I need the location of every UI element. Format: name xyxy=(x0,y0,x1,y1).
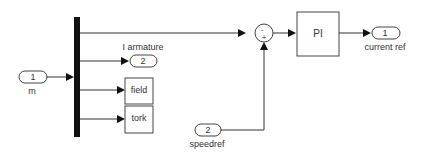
inport-m-number: 1 xyxy=(30,72,35,82)
outport-current-ref-label: current ref xyxy=(364,42,406,52)
sum-block[interactable]: - + xyxy=(255,24,273,42)
inport-speedref-number: 2 xyxy=(205,125,210,135)
pi-label: PI xyxy=(313,28,322,39)
inport-m-label: m xyxy=(28,86,36,96)
outport-i-armature-label: I armature xyxy=(122,42,163,52)
block-diagram: 1 m 2 I armature field tork - + 2 speedr… xyxy=(0,0,424,154)
sum-sign-minus: - xyxy=(261,25,264,34)
arrow-to-pi xyxy=(288,29,296,37)
arrow-m-to-demux xyxy=(66,73,74,81)
block-tork[interactable]: tork xyxy=(125,106,153,133)
arrow-to-tork xyxy=(117,115,125,123)
arrow-to-field xyxy=(117,86,125,94)
outport-current-ref-number: 1 xyxy=(382,28,387,38)
sum-sign-plus: + xyxy=(262,34,266,41)
demux-bar[interactable] xyxy=(74,17,80,137)
wire-speedref-to-sum xyxy=(221,50,264,130)
outport-i-armature-number: 2 xyxy=(140,56,145,66)
block-field[interactable]: field xyxy=(125,78,153,104)
inport-speedref-label: speedref xyxy=(189,139,225,149)
arrow-speedref-to-sum xyxy=(260,42,268,50)
inport-speedref[interactable]: 2 speedref xyxy=(189,124,225,149)
outport-current-ref[interactable]: 1 current ref xyxy=(364,27,406,52)
arrow-to-currentref xyxy=(363,29,371,37)
pi-controller-block[interactable]: PI xyxy=(297,12,339,56)
block-tork-label: tork xyxy=(131,113,147,123)
block-field-label: field xyxy=(131,85,148,95)
inport-m[interactable]: 1 m xyxy=(19,71,47,96)
arrow-to-iarmature xyxy=(121,57,129,65)
outport-i-armature[interactable]: 2 I armature xyxy=(122,42,163,67)
arrow-to-sum xyxy=(238,29,246,37)
